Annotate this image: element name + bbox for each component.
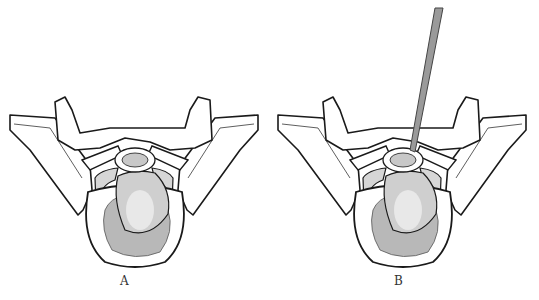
- lamina: [55, 97, 212, 150]
- tumor-highlight: [126, 190, 154, 230]
- panel-a: A: [0, 0, 270, 300]
- panel-label-a: A: [120, 274, 129, 288]
- lamina: [323, 97, 480, 150]
- panel-label-b: B: [394, 274, 403, 288]
- spinal-cord: [122, 153, 148, 167]
- vertebra-illustration-b: [270, 0, 539, 300]
- tumor-highlight: [394, 190, 422, 230]
- vertebra-a: [10, 97, 258, 267]
- panel-b: B: [270, 0, 539, 300]
- vertebra-b: [278, 8, 526, 267]
- vertebra-illustration-a: [0, 0, 270, 300]
- spinal-cord: [390, 153, 416, 167]
